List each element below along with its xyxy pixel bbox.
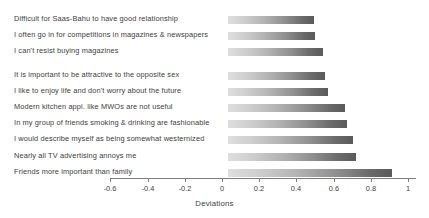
x-axis-tick-label: 1	[393, 184, 423, 194]
x-axis-tick-label: 0.6	[319, 184, 349, 194]
x-axis-tick	[222, 178, 223, 182]
x-axis-tick	[148, 178, 149, 182]
x-axis-tick-label: -0.2	[170, 184, 200, 194]
x-axis-tick-label: 0.4	[281, 184, 311, 194]
x-axis-title: Deviations	[0, 199, 429, 208]
x-axis-tick	[371, 178, 372, 182]
x-axis-tick-label: 0.2	[244, 184, 274, 194]
x-axis: Deviations -0.6-0.4-0.200.20.40.60.81	[0, 0, 429, 218]
x-axis-tick	[296, 178, 297, 182]
x-axis-tick-label: 0.8	[356, 184, 386, 194]
x-axis-tick-label: 0	[207, 184, 237, 194]
deviations-bar-chart: Difficult for Saas-Bahu to have good rel…	[0, 0, 429, 218]
x-axis-tick	[185, 178, 186, 182]
x-axis-tick	[334, 178, 335, 182]
x-axis-tick	[259, 178, 260, 182]
x-axis-tick	[110, 178, 111, 182]
x-axis-tick	[408, 178, 409, 182]
x-axis-tick-label: -0.6	[95, 184, 125, 194]
x-axis-tick-label: -0.4	[133, 184, 163, 194]
